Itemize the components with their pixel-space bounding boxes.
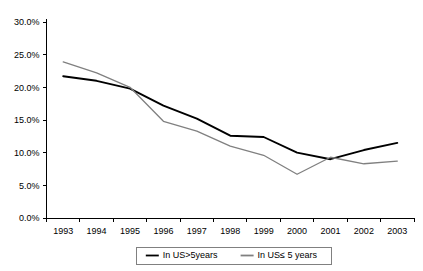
x-axis-tick-label: 1997 bbox=[187, 226, 207, 236]
legend-label-1: In US>5years bbox=[163, 250, 218, 260]
legend-label-2: In US≤ 5 years bbox=[258, 250, 318, 260]
y-axis-tick-label: 15.0% bbox=[14, 115, 40, 125]
y-axis-tick-label: 25.0% bbox=[14, 50, 40, 60]
x-axis-tick-label: 2002 bbox=[354, 226, 374, 236]
x-axis-tick-label: 1994 bbox=[87, 226, 107, 236]
x-axis-tick-label: 1998 bbox=[220, 226, 240, 236]
x-axis-tick-label: 2003 bbox=[387, 226, 407, 236]
x-axis-tick-label: 1999 bbox=[254, 226, 274, 236]
line-chart: 0.0%5.0%10.0%15.0%20.0%25.0%30.0% 199319… bbox=[0, 0, 423, 271]
y-axis-tick-label: 30.0% bbox=[14, 17, 40, 27]
chart-legend: In US>5yearsIn US≤ 5 years bbox=[137, 247, 332, 264]
y-axis-tick-label: 20.0% bbox=[14, 83, 40, 93]
y-axis-tick-label: 5.0% bbox=[19, 181, 40, 191]
x-axis-tick-label: 2001 bbox=[320, 226, 340, 236]
x-axis-tick-label: 2000 bbox=[287, 226, 307, 236]
x-axis-tick-label: 1996 bbox=[153, 226, 173, 236]
y-axis-tick-label: 10.0% bbox=[14, 148, 40, 158]
x-axis-tick-label: 1995 bbox=[120, 226, 140, 236]
x-axis-tick-label: 1993 bbox=[53, 226, 73, 236]
y-axis-tick-label: 0.0% bbox=[19, 213, 40, 223]
chart-canvas: 0.0%5.0%10.0%15.0%20.0%25.0%30.0% 199319… bbox=[0, 0, 423, 271]
